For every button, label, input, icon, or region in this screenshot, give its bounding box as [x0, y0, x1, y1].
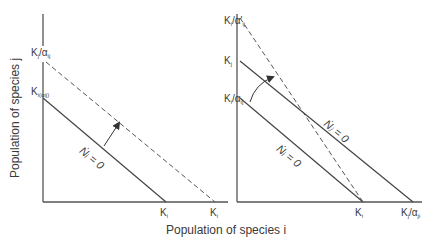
y-axis-title: Population of species j [8, 58, 22, 178]
right-y-label-ki-over-alpha-prime: Ki/α'ij [224, 16, 245, 27]
left-x-label-ki-prime: Ki [210, 208, 218, 219]
right-x-label-ki: Ki [355, 208, 363, 219]
left-panel [43, 14, 228, 202]
right-y-label-ki-over-alpha: Ki/αij [224, 94, 243, 105]
right-y-label-kj: Kj [224, 56, 232, 67]
right-ni-rotated-isocline [240, 18, 363, 202]
left-y-label-ki-alpha: Ki(αij) [31, 87, 49, 98]
left-solid-isocline [43, 98, 166, 202]
right-rotation-arrow [250, 77, 273, 102]
left-x-label-ki: Ki [160, 208, 168, 219]
left-shift-arrow [104, 123, 119, 146]
x-axis-title: Population of species i [166, 223, 286, 237]
right-panel [237, 14, 422, 202]
right-x-label-kj-over-alpha: Kj/αji [401, 208, 420, 219]
right-ni-isocline [240, 98, 363, 202]
left-y-label-kj-prime-over-alpha: Kj/αij [31, 48, 50, 59]
left-dashed-isocline [46, 62, 215, 202]
